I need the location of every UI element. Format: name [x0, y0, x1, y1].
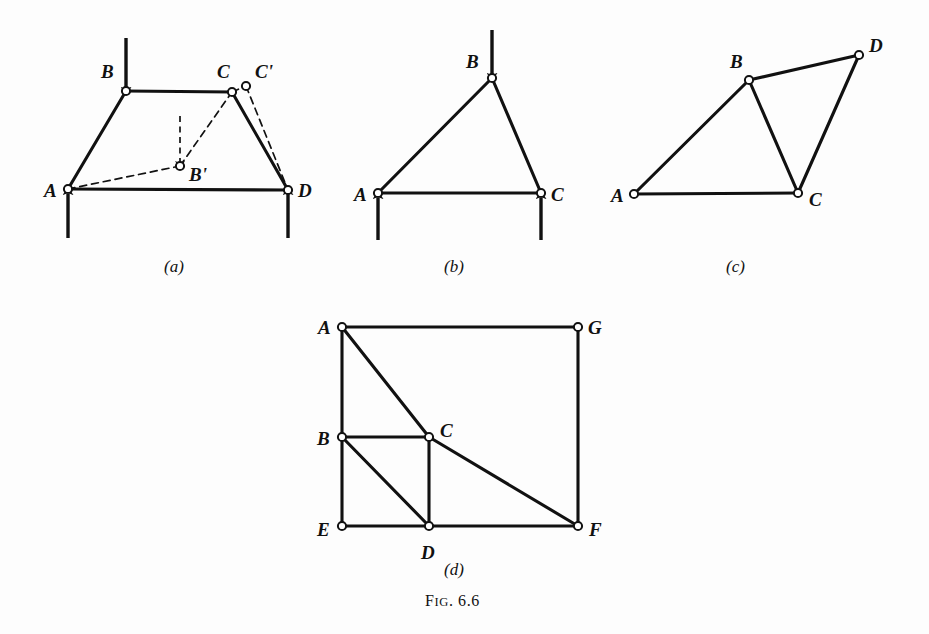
node-label-b-B: B [466, 52, 479, 71]
sub-caption-d: (d) [444, 561, 464, 578]
node-label-b-A: A [354, 185, 367, 204]
node-label-d-D: D [421, 543, 435, 562]
node-a-D [284, 186, 292, 194]
member-CD [798, 55, 859, 193]
node-label-d-A: A [318, 318, 331, 337]
node-a-B [122, 87, 130, 95]
panel-d [338, 323, 582, 530]
node-label-d-B: B [317, 429, 330, 448]
dashed-member-B'C [180, 92, 232, 166]
node-label-a-D: D [298, 181, 312, 200]
node-d-B [338, 433, 346, 441]
figure-6-6: ABCDB'C'(a)ABC(b)ABCD(c)AGBCEDF(d) FIG. … [0, 0, 929, 634]
node-label-d-E: E [317, 520, 330, 539]
node-b-A [374, 189, 382, 197]
node-a-A [64, 185, 72, 193]
node-label-c-A: A [611, 186, 624, 205]
member-BC [749, 80, 798, 193]
node-b-C [537, 189, 545, 197]
node-c-D [855, 51, 863, 59]
node-label-d-C: C [440, 421, 453, 440]
dashed-member-AB' [68, 166, 180, 189]
panel-b [374, 30, 545, 240]
node-d-F [574, 522, 582, 530]
node-label-b-C: C [551, 185, 564, 204]
dashed-member-C'D [246, 86, 288, 190]
member-CF [429, 437, 578, 526]
member-CD [232, 92, 288, 190]
caption-text: FIG. 6.6 [425, 592, 480, 609]
node-d-C [425, 433, 433, 441]
member-AC [634, 193, 798, 194]
node-label-c-B: B [730, 52, 743, 71]
member-AD [68, 189, 288, 190]
node-d-G [574, 323, 582, 331]
node-d-A [338, 323, 346, 331]
node-d-D [425, 522, 433, 530]
member-AB [68, 91, 126, 189]
node-label-d-G: G [588, 318, 602, 337]
sub-caption-b: (b) [444, 258, 464, 275]
node-c-B [745, 76, 753, 84]
node-label-a-C: C [217, 62, 230, 81]
node-label-a-C-prime: C' [255, 62, 273, 81]
node-label-d-F: F [589, 520, 602, 539]
node-a-C [228, 88, 236, 96]
node-a-B-prime [176, 162, 184, 170]
diagram-canvas [0, 0, 929, 634]
member-AB [634, 80, 749, 194]
member-AB [378, 78, 492, 193]
member-BD [749, 55, 859, 80]
figure-caption: FIG. 6.6 [425, 593, 480, 609]
member-BC [492, 78, 541, 193]
node-c-A [630, 190, 638, 198]
node-label-a-B-prime: B' [189, 165, 207, 184]
sub-caption-a: (a) [164, 258, 184, 275]
node-label-c-C: C [809, 190, 822, 209]
node-label-a-A: A [44, 181, 57, 200]
node-c-C [794, 189, 802, 197]
member-BD [342, 437, 429, 526]
node-b-B [488, 74, 496, 82]
node-label-c-D: D [869, 36, 883, 55]
node-label-a-B: B [101, 62, 114, 81]
node-d-E [338, 522, 346, 530]
panel-c [630, 51, 863, 198]
node-a-C-prime [242, 82, 250, 90]
sub-caption-c: (c) [726, 258, 745, 275]
member-BC [126, 91, 232, 92]
member-AC [342, 327, 429, 437]
